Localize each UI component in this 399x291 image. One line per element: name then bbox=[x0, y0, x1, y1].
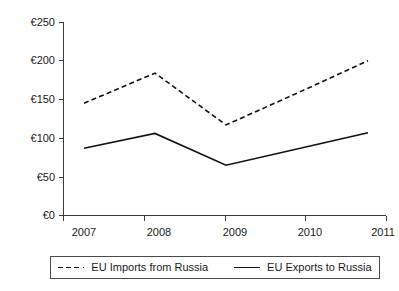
y-tick-label-50: €50 bbox=[37, 171, 55, 183]
y-tick-label-100: €100 bbox=[31, 132, 55, 144]
x-tick-label-2011: 2011 bbox=[371, 226, 395, 238]
y-tick-label-200: €200 bbox=[31, 54, 55, 66]
x-tick-label-2010: 2010 bbox=[298, 226, 322, 238]
legend-label-imports: EU Imports from Russia bbox=[91, 262, 208, 273]
line-chart-plot: €250 €200 €150 €100 €50 €0 2007 2008 200… bbox=[0, 0, 399, 291]
x-tick-label-2008: 2008 bbox=[147, 226, 171, 238]
series-line-eu-imports-from-russia bbox=[84, 61, 368, 125]
y-tick-label-250: €250 bbox=[31, 16, 55, 28]
x-axis: 2007 2008 2009 2010 2011 bbox=[64, 216, 395, 239]
y-axis: €250 €200 €150 €100 €50 €0 bbox=[31, 16, 64, 221]
chart-container: €250 €200 €150 €100 €50 €0 2007 2008 200… bbox=[0, 0, 399, 291]
series-line-eu-exports-to-russia bbox=[84, 133, 368, 166]
dashed-line-swatch-icon bbox=[58, 267, 84, 269]
x-tick-label-2007: 2007 bbox=[72, 226, 96, 238]
legend-label-exports: EU Exports to Russia bbox=[267, 262, 372, 273]
solid-line-swatch-icon bbox=[234, 267, 260, 269]
legend-entry-exports: EU Exports to Russia bbox=[234, 262, 372, 273]
legend-entry-imports: EU Imports from Russia bbox=[58, 262, 208, 273]
x-tick-label-2009: 2009 bbox=[223, 226, 247, 238]
y-tick-label-0: €0 bbox=[43, 209, 55, 221]
chart-legend: EU Imports from Russia EU Exports to Rus… bbox=[50, 256, 380, 279]
y-tick-label-150: €150 bbox=[31, 93, 55, 105]
